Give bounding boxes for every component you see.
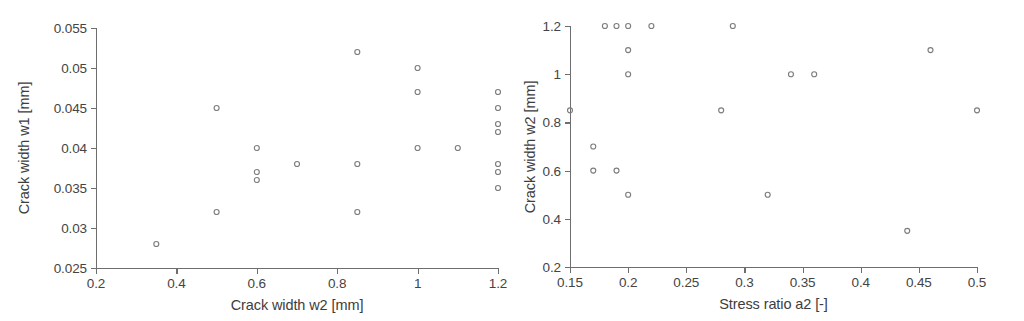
scatter-point [719,108,724,113]
scatter-point [812,72,817,77]
scatter-data-layer [0,0,512,321]
scatter-point [496,90,501,95]
scatter-point [254,146,259,151]
scatter-point [214,106,219,111]
scatter-point [254,170,259,175]
scatter-point [295,162,300,167]
figure-two-scatter-panels: 0.0250.030.0350.040.0450.050.0550.20.40.… [0,0,1024,321]
scatter-point [614,168,619,173]
scatter-point [788,72,793,77]
scatter-point [496,106,501,111]
scatter-point [496,130,501,135]
scatter-point [614,24,619,29]
chart-panel-left: 0.0250.030.0350.040.0450.050.0550.20.40.… [0,0,512,321]
scatter-point [496,122,501,127]
scatter-point [649,24,654,29]
scatter-point [626,48,631,53]
scatter-point [626,192,631,197]
scatter-point [905,228,910,233]
scatter-point [254,178,259,183]
scatter-point [355,162,360,167]
scatter-point [415,146,420,151]
scatter-point [765,192,770,197]
scatter-point [730,24,735,29]
scatter-point [602,24,607,29]
scatter-point [415,90,420,95]
scatter-point [591,144,596,149]
scatter-point [455,146,460,151]
scatter-point [355,210,360,215]
scatter-point [496,170,501,175]
scatter-point [591,168,596,173]
scatter-point [355,50,360,55]
scatter-point [568,108,573,113]
scatter-point [154,242,159,247]
scatter-point [214,210,219,215]
scatter-point [496,162,501,167]
scatter-point [415,66,420,71]
scatter-point [626,72,631,77]
chart-panel-right: 0.20.40.60.811.20.150.20.250.30.350.40.4… [512,0,1024,321]
scatter-point [975,108,980,113]
scatter-point [928,48,933,53]
scatter-point [496,186,501,191]
scatter-point [626,24,631,29]
scatter-data-layer [512,0,1024,321]
